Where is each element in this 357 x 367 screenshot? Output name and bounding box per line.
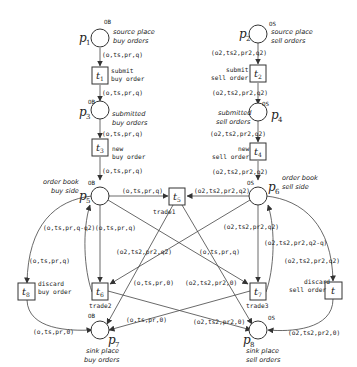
transition-t6: t 6 trade2 <box>89 283 112 309</box>
arc-label: (o2,ts2,pr2,q2) <box>212 168 268 176</box>
arc-label: (o,ts,pr,q) <box>122 187 163 195</box>
arc-t9-p8 <box>268 299 333 331</box>
svg-text:1: 1 <box>100 75 104 82</box>
svg-text:buy order: buy order <box>112 153 146 161</box>
arc-label: (o2,ts2,pr2,q2) <box>210 130 266 138</box>
arc-label: (o2,ts2,pr2,q2) <box>116 248 172 256</box>
arc-label: (o,ts,pr,q) <box>29 257 70 265</box>
svg-text:OS: OS <box>268 315 275 321</box>
svg-text:trade3: trade3 <box>246 302 269 309</box>
arc-t8-p7 <box>27 300 92 330</box>
svg-text:OS: OS <box>262 101 269 107</box>
svg-text:sink place: sink place <box>246 347 279 355</box>
svg-text:buy side: buy side <box>51 187 79 195</box>
place-p8: OS p 8 sink place sell orders <box>243 315 281 364</box>
arc-p5-t8 <box>27 196 92 283</box>
arc-p5-t7 <box>108 200 248 284</box>
place-circle <box>91 187 109 205</box>
place-circle <box>91 29 109 47</box>
svg-text:trade1: trade1 <box>153 208 176 215</box>
svg-text:submitted: submitted <box>112 110 146 118</box>
svg-text:sell order: sell order <box>212 153 250 160</box>
svg-text:order book: order book <box>282 174 319 182</box>
arc-p6-t6 <box>110 200 250 284</box>
svg-text:3: 3 <box>86 113 90 121</box>
arc-label: (o2,ts2,pr2,0) <box>193 318 245 326</box>
arc-label: (o,ts,pr,q) <box>102 51 143 59</box>
transition-t4: t 4 new sell order <box>212 143 266 160</box>
svg-text:sell order: sell order <box>289 286 327 293</box>
petri-net-diagram: OB p 1 source place buy orders OS p 2 so… <box>0 0 357 367</box>
svg-text:submit: submit <box>226 66 249 73</box>
transition-t7: t 7 trade3 <box>246 283 269 309</box>
svg-text:OS: OS <box>247 180 254 186</box>
svg-text:OB: OB <box>104 19 111 25</box>
transition-t1: t 1 submit buy order <box>92 67 145 84</box>
arc-label: (o,ts,pr,q) <box>95 224 136 232</box>
arc-label: (o,ts,pr,0) <box>133 279 174 287</box>
svg-text:buy order: buy order <box>38 288 72 296</box>
svg-text:OB: OB <box>88 180 95 186</box>
arc-label: (o,ts,pr,q-q2) <box>43 224 95 232</box>
svg-text:2: 2 <box>258 73 262 80</box>
svg-text:sell order: sell order <box>211 74 249 81</box>
svg-text:6: 6 <box>100 291 104 298</box>
svg-text:submit: submit <box>111 67 134 74</box>
svg-text:sell orders: sell orders <box>246 356 281 364</box>
svg-text:new: new <box>112 145 123 152</box>
place-p3: OB p 3 submitted buy orders <box>79 99 148 127</box>
transition-t8: t 8 discard buy order <box>18 280 72 300</box>
arc-label: (o2,ts2,pr2,q2-q) <box>264 239 327 247</box>
svg-text:discard: discard <box>304 278 330 285</box>
svg-text:3: 3 <box>100 147 104 154</box>
arc-label: (o2,ts2,pr2,0) <box>288 329 340 337</box>
svg-text:sell side: sell side <box>282 183 309 191</box>
svg-text:buy orders: buy orders <box>84 356 120 364</box>
arc-t6-p5 <box>85 205 92 292</box>
svg-text:new: new <box>238 145 249 152</box>
svg-text:OB: OB <box>88 313 95 319</box>
arc-label: (o2,ts2,pr2,q2) <box>284 257 340 265</box>
svg-text:sell orders: sell orders <box>271 37 306 45</box>
arc-label: (o,ts,pr,0) <box>126 316 167 324</box>
svg-text:sell orders: sell orders <box>216 118 251 126</box>
arc-label: (o2,ts2,pr2,q2) <box>223 223 279 231</box>
place-p2: OS p 2 source place sell orders <box>239 21 313 45</box>
svg-text:buy orders: buy orders <box>113 37 149 45</box>
arc-label: (o2,ts2,pr2,q2) <box>211 49 267 57</box>
svg-text:2: 2 <box>246 35 250 43</box>
place-p7: OB p 7 sink place buy orders <box>84 313 120 364</box>
arc-label: (o2,ts2,pr2,0) <box>185 279 237 287</box>
arc-label: (o2,ts2,pr2,q2) <box>194 187 250 195</box>
arc-label: (o,ts,pr,q) <box>102 89 143 97</box>
arc-t7-p6 <box>266 205 273 292</box>
svg-text:5: 5 <box>86 197 90 205</box>
svg-text:trade2: trade2 <box>89 302 112 309</box>
svg-text:OB: OB <box>88 99 95 105</box>
svg-text:sink place: sink place <box>86 347 119 355</box>
svg-text:8: 8 <box>26 291 30 298</box>
svg-text:1: 1 <box>86 39 90 47</box>
place-circle <box>91 321 109 339</box>
svg-text:5: 5 <box>177 196 181 203</box>
svg-text:buy orders: buy orders <box>112 119 148 127</box>
place-circle <box>249 321 267 339</box>
arc-label: (o,ts,pr,q) <box>102 130 143 138</box>
arc-label: (o,ts,pr,q) <box>199 248 240 256</box>
place-p5: OB p 5 order book buy side <box>43 178 109 205</box>
place-p1: OB p 1 source place buy orders <box>79 19 155 47</box>
svg-text:order book: order book <box>43 178 80 186</box>
transition-t2: t 2 submit sell order <box>211 65 266 82</box>
svg-text:7: 7 <box>258 291 262 298</box>
arc-label: (o,ts,pr,0) <box>33 328 74 336</box>
place-circle <box>249 187 267 205</box>
place-p4: OS p 4 submitted sell orders <box>216 101 283 126</box>
svg-text:submitted: submitted <box>218 109 252 117</box>
svg-text:source place: source place <box>271 28 313 36</box>
arc-label: (o2,ts2,pr2,q2) <box>212 89 268 97</box>
arc-label: (o,ts,pr,q) <box>102 167 143 175</box>
svg-text:4: 4 <box>278 116 283 124</box>
svg-text:discard: discard <box>38 280 64 287</box>
svg-text:buy order: buy order <box>111 75 145 83</box>
place-circle <box>249 25 267 43</box>
